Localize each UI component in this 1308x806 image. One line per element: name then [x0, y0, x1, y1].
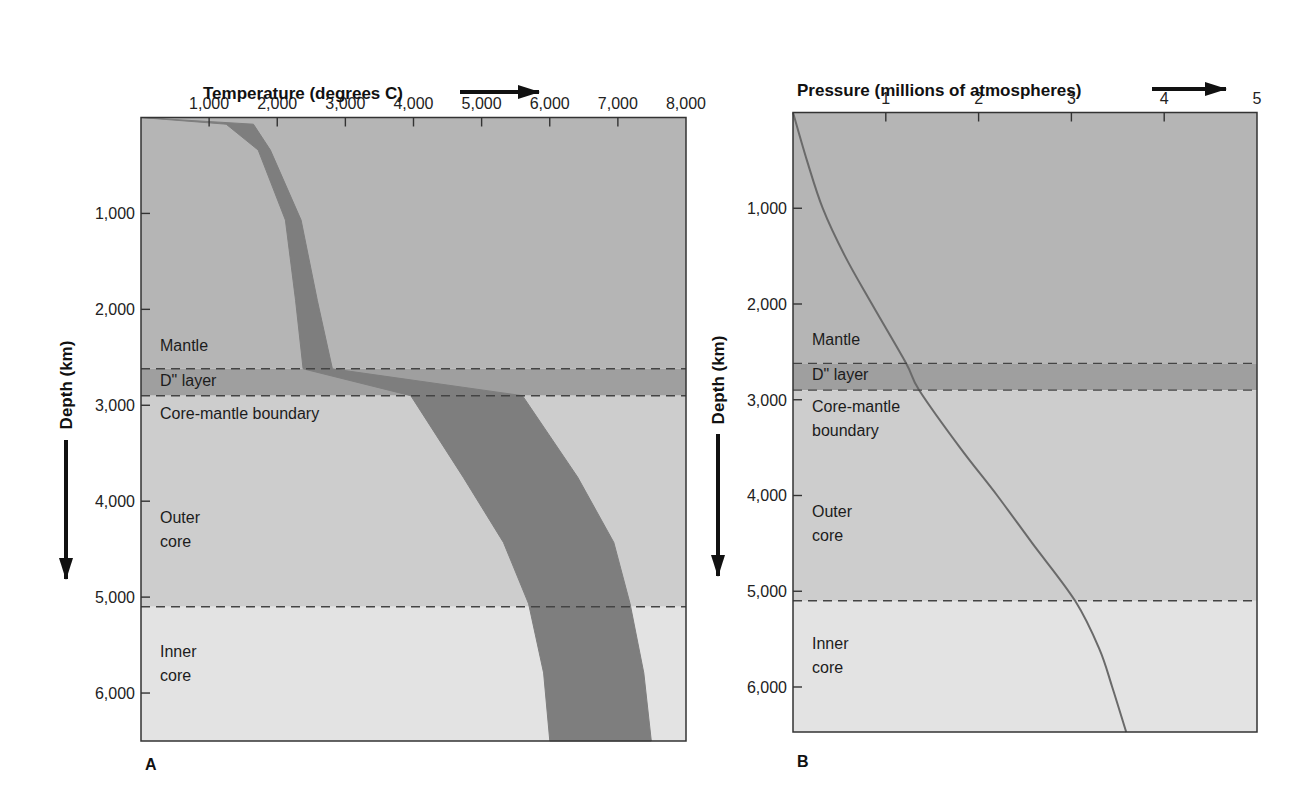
x-tick-label: 5,000	[462, 95, 502, 112]
x-tick-label: 5	[1253, 90, 1262, 107]
y-tick-label: 3,000	[95, 397, 135, 414]
y-tick-label: 6,000	[747, 679, 787, 696]
pressure-panel: 12345 1,0002,0003,0004,0005,0006,000 Man…	[709, 81, 1262, 770]
y-tick-label: 2,000	[95, 301, 135, 318]
x-tick-label: 7,000	[598, 95, 638, 112]
y-tick-label: 1,000	[95, 205, 135, 222]
y-axis-title-group: Depth (km)	[709, 336, 728, 425]
y-tick-label: 6,000	[95, 685, 135, 702]
panel-label-b: B	[797, 753, 809, 770]
x-tick-label: 6,000	[530, 95, 570, 112]
region-label-mantle: Mantle	[812, 331, 860, 348]
y-axis-title: Depth (km)	[57, 341, 76, 430]
temperature-panel: 1,0002,0003,0004,0005,0006,0007,0008,000…	[57, 84, 706, 773]
layer-mantlefill	[793, 113, 1257, 364]
region-label-d-layer: D" layer	[812, 366, 869, 383]
layer-mantlefill	[141, 118, 686, 369]
layer-inner-corefill	[793, 601, 1257, 732]
y-tick-label: 5,000	[95, 589, 135, 606]
y-axis-title: Depth (km)	[709, 336, 728, 425]
x-axis-title: Pressure (millions of atmospheres)	[797, 81, 1081, 100]
y-tick-label: 4,000	[747, 487, 787, 504]
y-tick-label: 2,000	[747, 296, 787, 313]
x-tick-label: 4	[1160, 90, 1169, 107]
y-tick-label: 1,000	[747, 200, 787, 217]
x-axis-title: Temperature (degrees C)	[203, 84, 403, 103]
region-label-mantle: Mantle	[160, 337, 208, 354]
panel-label-a: A	[145, 756, 157, 773]
x-tick-label: 8,000	[666, 95, 706, 112]
region-label-core-mantle-boundary: Core-mantle boundary	[160, 405, 319, 422]
figure: 1,0002,0003,0004,0005,0006,0007,0008,000…	[0, 0, 1308, 806]
region-label-d-layer: D" layer	[160, 372, 217, 389]
y-tick-label: 5,000	[747, 583, 787, 600]
y-axis-title-group: Depth (km)	[57, 341, 76, 430]
y-tick-label: 4,000	[95, 493, 135, 510]
y-tick-label: 3,000	[747, 392, 787, 409]
